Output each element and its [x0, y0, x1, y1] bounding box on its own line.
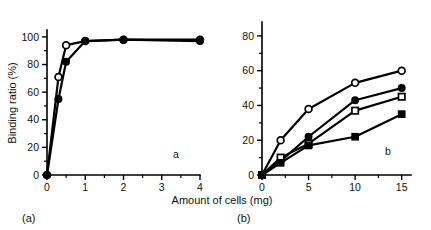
- panel-a-xtick-label: 4: [197, 181, 203, 193]
- panel-b-ytick-label: 0: [248, 169, 254, 181]
- panel-a-marker-filled-circle: [120, 36, 126, 42]
- panel-b-marker-filled-square: [305, 142, 311, 148]
- panel-a-ytick-label: 40: [27, 113, 39, 125]
- panel-a-marker-filled-circle: [82, 38, 88, 44]
- panel-b-ytick-label: 60: [242, 64, 254, 76]
- panel-a-ytick-label: 80: [27, 58, 39, 70]
- panel-b-xtick-label: 5: [306, 181, 312, 193]
- panel-b-ytick-label: 80: [242, 30, 254, 42]
- panel-b-ytick-label: 40: [242, 99, 254, 111]
- x-axis-title: Amount of cells (mg): [172, 194, 273, 206]
- panel-a-annotation-letter: a: [173, 148, 179, 160]
- panel-b-marker-filled-square: [259, 172, 265, 178]
- panel-b-marker-open-circle: [277, 137, 284, 144]
- panel-b-xtick-label: 0: [259, 181, 265, 193]
- panel-a-marker-filled-circle: [44, 172, 50, 178]
- panel-b-xtick-label: 15: [396, 181, 408, 193]
- panel-a-marker-filled-circle: [55, 96, 61, 102]
- panel-a-xtick-label: 3: [159, 181, 165, 193]
- panel-a-marker-open-circle: [55, 74, 62, 81]
- panel-b-marker-filled-circle: [352, 97, 358, 103]
- panel-a-marker-filled-circle: [197, 38, 203, 44]
- panel-b-marker-filled-circle: [398, 85, 404, 91]
- panel-b-marker-filled-circle: [305, 134, 311, 140]
- panel-a-marker-open-circle: [63, 42, 70, 49]
- panel-b-marker-open-circle: [398, 67, 405, 74]
- panel-b-annotation-letter: b: [385, 145, 391, 157]
- panel-a-xtick-label: 2: [121, 181, 127, 193]
- panel-b-ytick-label: 20: [242, 134, 254, 146]
- panel-b-marker-filled-square: [352, 134, 358, 140]
- panel-b-marker-open-square: [352, 107, 358, 113]
- panel-a-xtick-label: 1: [82, 181, 88, 193]
- panel-b-marker-open-square: [398, 94, 404, 100]
- panel-b-xtick-label: 10: [349, 181, 361, 193]
- figure-container: 02040608010001234a020406080051015bBindin…: [0, 0, 431, 230]
- panel-b-marker-open-circle: [305, 106, 312, 113]
- panel-b-marker-open-circle: [352, 79, 359, 86]
- panel-a-ytick-label: 60: [27, 86, 39, 98]
- panel-a-xtick-label: 0: [44, 181, 50, 193]
- panel-b-marker-filled-square: [278, 160, 284, 166]
- two-panel-line-chart: 02040608010001234a020406080051015bBindin…: [0, 0, 431, 230]
- caption-panel-b: (b): [237, 212, 250, 224]
- panel-b-marker-filled-square: [399, 111, 405, 117]
- caption-panel-a: (a): [22, 212, 35, 224]
- y-axis-title: Binding ratio (%): [6, 62, 18, 143]
- panel-a-marker-filled-circle: [63, 59, 69, 65]
- panel-a-ytick-label: 20: [27, 141, 39, 153]
- panel-a-ytick-label: 0: [33, 169, 39, 181]
- panel-a-ytick-label: 100: [21, 31, 39, 43]
